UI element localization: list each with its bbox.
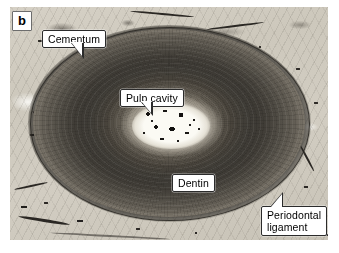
label-dentin-text: Dentin (172, 174, 215, 192)
canal-line (14, 181, 48, 190)
label-cementum: Cementum (42, 30, 106, 48)
label-pulp-cavity: Pulp cavity (120, 89, 184, 107)
label-periodontal-ligament-text: Periodontal ligament (261, 206, 327, 236)
label-periodontal-ligament-pointer-fill (271, 194, 282, 207)
figure-panel: b Cementum Pulp cavity Dentin Periodonta… (0, 0, 339, 253)
canal-line (18, 215, 70, 226)
canal-line (50, 232, 170, 240)
label-pulp-cavity-pointer-fill (141, 101, 151, 113)
label-cementum-pointer-fill (71, 42, 82, 56)
panel-letter: b (12, 11, 32, 31)
label-dentin: Dentin (172, 174, 215, 192)
canal-line (130, 10, 194, 18)
label-periodontal-ligament: Periodontal ligament (261, 206, 327, 236)
